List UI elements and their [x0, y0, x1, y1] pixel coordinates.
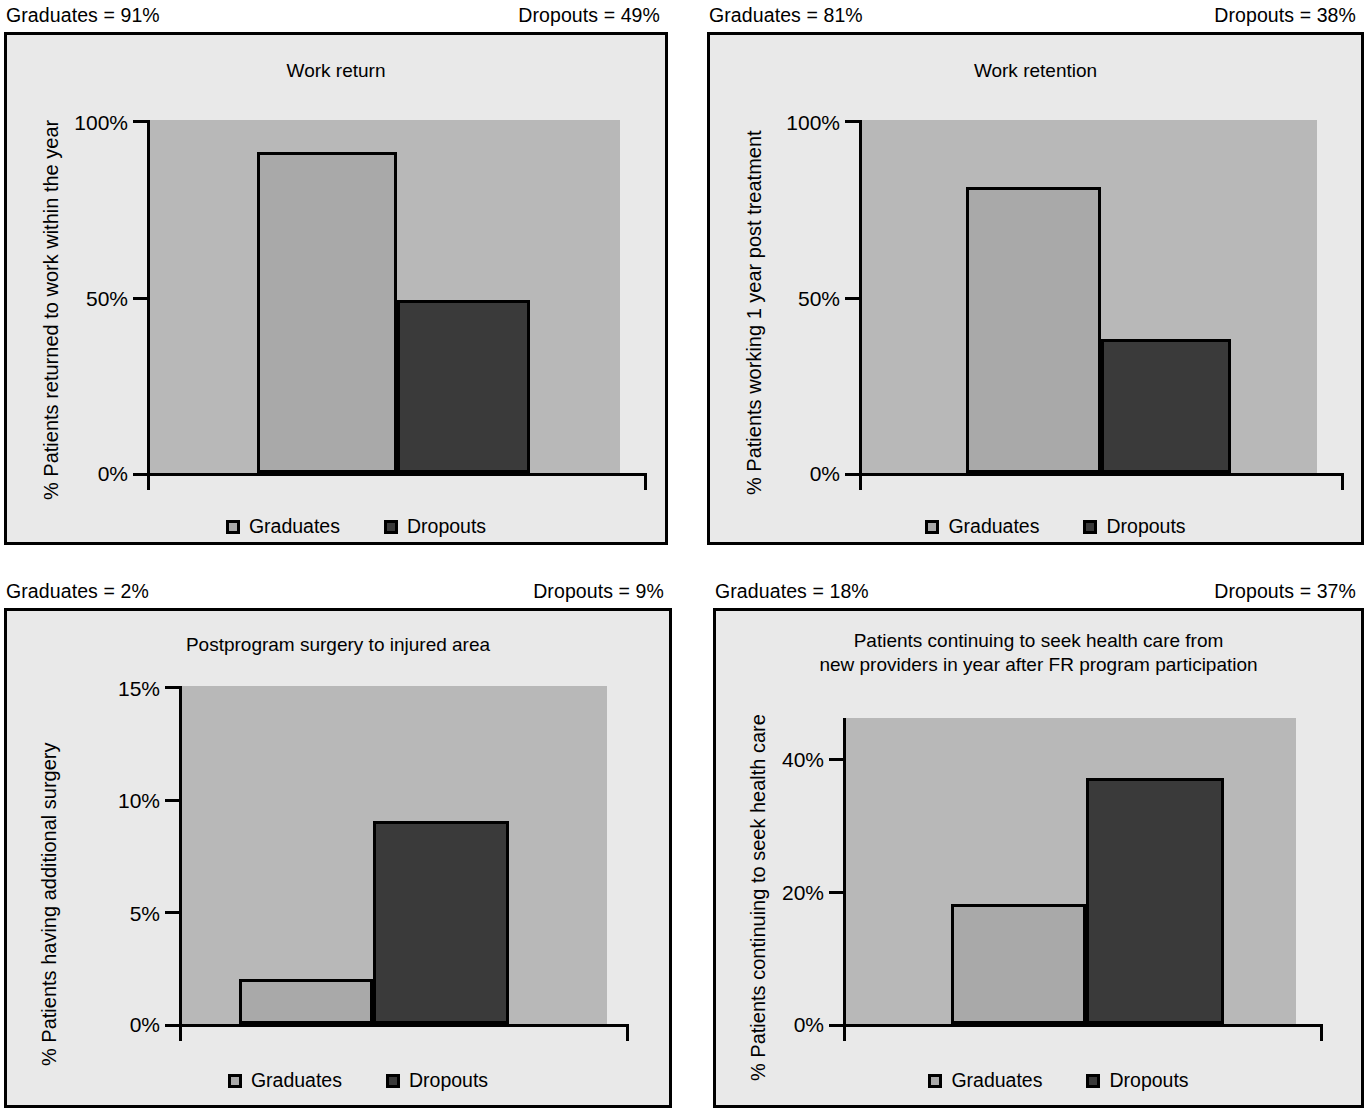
y-tick-label-10: 10%	[118, 790, 160, 811]
legend-swatch-graduates-icon	[226, 520, 240, 534]
y-tick-0	[133, 473, 147, 476]
x-axis-start-tick	[147, 476, 150, 490]
legend-label-graduates: Graduates	[948, 515, 1039, 538]
legend-label-dropouts: Dropouts	[1106, 515, 1185, 538]
graduates-summary-label: Graduates = 18%	[713, 580, 869, 603]
dropouts-summary-label: Dropouts = 37%	[1214, 580, 1364, 603]
graduates-summary-label: Graduates = 91%	[4, 4, 160, 27]
bar-graduates[interactable]	[951, 904, 1086, 1024]
legend-swatch-dropouts-icon	[1086, 1074, 1100, 1088]
bar-graduates[interactable]	[239, 979, 373, 1024]
y-axis-line	[147, 120, 150, 473]
bar-graduates[interactable]	[257, 152, 397, 473]
bar-dropouts[interactable]	[1086, 778, 1224, 1024]
y-axis-label: % Patients returned to work within the y…	[41, 120, 61, 500]
y-tick-40	[829, 758, 843, 761]
y-axis-line	[179, 686, 182, 1024]
y-tick-50	[133, 297, 147, 300]
legend-swatch-dropouts-icon	[1083, 520, 1097, 534]
legend-item-dropouts[interactable]: Dropouts	[1083, 515, 1185, 538]
panel-frame: Postprogram surgery to injured area % Pa…	[4, 608, 672, 1108]
chart-title: Work retention	[710, 59, 1361, 83]
legend-item-graduates[interactable]: Graduates	[226, 515, 340, 538]
graduates-summary-label: Graduates = 81%	[707, 4, 863, 27]
panel-frame: Work retention % Patients working 1 year…	[707, 32, 1364, 545]
chart-panel-work-retention: Graduates = 81% Dropouts = 38% Work rete…	[707, 4, 1364, 545]
dropouts-summary-label: Dropouts = 38%	[1214, 4, 1364, 27]
legend-item-dropouts[interactable]: Dropouts	[1086, 1069, 1188, 1092]
y-axis-line	[859, 120, 862, 473]
chart-title: Postprogram surgery to injured area	[7, 633, 669, 657]
y-tick-label-20: 20%	[782, 882, 824, 903]
plot-area: 0% 50% 100%	[862, 120, 1317, 473]
y-axis-line	[843, 718, 846, 1024]
y-tick-label-0: 0%	[810, 463, 840, 484]
legend-item-dropouts[interactable]: Dropouts	[384, 515, 486, 538]
bar-graduates[interactable]	[966, 187, 1101, 473]
legend-swatch-graduates-icon	[228, 1074, 242, 1088]
y-tick-label-50: 50%	[86, 288, 128, 309]
plot-area: 0% 50% 100%	[150, 120, 620, 473]
chart-legend: Graduates Dropouts	[87, 515, 625, 538]
y-tick-label-100: 100%	[74, 111, 128, 132]
panel-header: Graduates = 18% Dropouts = 37%	[713, 580, 1364, 606]
panel-header: Graduates = 2% Dropouts = 9%	[4, 580, 672, 606]
y-tick-5	[165, 911, 179, 914]
y-tick-label-40: 40%	[782, 749, 824, 770]
legend-label-graduates: Graduates	[951, 1069, 1042, 1092]
panel-header: Graduates = 91% Dropouts = 49%	[4, 4, 668, 30]
chart-legend: Graduates Dropouts	[790, 515, 1321, 538]
dropouts-summary-label: Dropouts = 49%	[518, 4, 668, 27]
x-axis-start-tick	[859, 476, 862, 490]
x-axis-end-tick	[1320, 1027, 1323, 1041]
y-tick-0	[845, 473, 859, 476]
legend-swatch-dropouts-icon	[386, 1074, 400, 1088]
graduates-summary-label: Graduates = 2%	[4, 580, 149, 603]
x-axis-line	[179, 1024, 629, 1027]
x-axis-line	[147, 473, 647, 476]
x-axis-start-tick	[843, 1027, 846, 1041]
x-axis-line	[859, 473, 1344, 476]
y-tick-100	[845, 120, 859, 123]
chart-title: Patients continuing to seek health care …	[716, 629, 1361, 677]
x-axis-end-tick	[644, 476, 647, 490]
legend-label-graduates: Graduates	[251, 1069, 342, 1092]
bar-dropouts[interactable]	[1101, 339, 1231, 473]
bar-dropouts[interactable]	[397, 300, 530, 473]
legend-item-graduates[interactable]: Graduates	[228, 1069, 342, 1092]
legend-swatch-graduates-icon	[928, 1074, 942, 1088]
plot-area: 0% 20% 40%	[846, 718, 1296, 1024]
legend-swatch-dropouts-icon	[384, 520, 398, 534]
y-tick-100	[133, 120, 147, 123]
legend-item-dropouts[interactable]: Dropouts	[386, 1069, 488, 1092]
y-tick-label-0: 0%	[98, 463, 128, 484]
y-tick-label-0: 0%	[130, 1014, 160, 1035]
y-tick-15	[165, 686, 179, 689]
x-axis-line	[843, 1024, 1323, 1027]
plot-area: 0% 5% 10% 15%	[182, 686, 607, 1024]
panel-frame: Work return % Patients returned to work …	[4, 32, 668, 545]
legend-label-dropouts: Dropouts	[1109, 1069, 1188, 1092]
y-tick-10	[165, 799, 179, 802]
chart-legend: Graduates Dropouts	[796, 1069, 1321, 1092]
y-tick-label-50: 50%	[798, 288, 840, 309]
y-tick-50	[845, 297, 859, 300]
y-axis-label: % Patients working 1 year post treatment	[744, 130, 764, 495]
y-axis-label: % Patients continuing to seek health car…	[748, 714, 768, 1081]
chart-legend: Graduates Dropouts	[87, 1069, 629, 1092]
legend-item-graduates[interactable]: Graduates	[925, 515, 1039, 538]
panel-header: Graduates = 81% Dropouts = 38%	[707, 4, 1364, 30]
chart-panel-continuing-health-care: Graduates = 18% Dropouts = 37% Patients …	[713, 580, 1364, 1108]
y-tick-label-15: 15%	[118, 677, 160, 698]
legend-swatch-graduates-icon	[925, 520, 939, 534]
bar-dropouts[interactable]	[373, 821, 509, 1024]
chart-panel-postprogram-surgery: Graduates = 2% Dropouts = 9% Postprogram…	[4, 580, 672, 1108]
y-axis-label: % Patients having additional surgery	[39, 742, 59, 1066]
chart-panel-work-return: Graduates = 91% Dropouts = 49% Work retu…	[4, 4, 668, 545]
y-tick-label-100: 100%	[786, 111, 840, 132]
x-axis-end-tick	[626, 1027, 629, 1041]
x-axis-end-tick	[1341, 476, 1344, 490]
chart-title: Work return	[7, 59, 665, 83]
legend-item-graduates[interactable]: Graduates	[928, 1069, 1042, 1092]
legend-label-dropouts: Dropouts	[409, 1069, 488, 1092]
